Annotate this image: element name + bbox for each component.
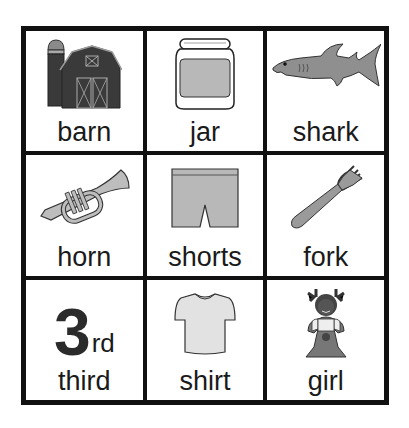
word-label: barn — [26, 115, 143, 149]
word-label: horn — [26, 240, 143, 274]
jar-icon — [174, 37, 236, 111]
shirt-icon — [173, 290, 237, 356]
card-shark[interactable]: shark — [267, 31, 384, 151]
word-label: shorts — [147, 240, 264, 274]
card-third[interactable]: 3 rd third — [26, 280, 143, 400]
shorts-icon — [170, 167, 240, 229]
card-girl[interactable]: girl — [267, 280, 384, 400]
picture-word-grid: barn jar shark — [21, 26, 389, 405]
fork-icon — [288, 164, 364, 232]
word-label: jar — [147, 115, 264, 149]
word-label: fork — [267, 240, 384, 274]
shark-icon — [271, 42, 381, 90]
girl-icon — [304, 287, 348, 359]
card-horn[interactable]: horn — [26, 155, 143, 275]
ordinal-3rd-icon: 3 rd — [26, 284, 143, 362]
barn-icon — [46, 38, 122, 110]
card-barn[interactable]: barn — [26, 31, 143, 151]
card-fork[interactable]: fork — [267, 155, 384, 275]
card-shirt[interactable]: shirt — [147, 280, 264, 400]
trumpet-icon — [37, 166, 131, 230]
word-label: girl — [267, 364, 384, 398]
card-jar[interactable]: jar — [147, 31, 264, 151]
card-shorts[interactable]: shorts — [147, 155, 264, 275]
ordinal-number: 3 — [54, 302, 91, 362]
word-label: shirt — [147, 364, 264, 398]
ordinal-suffix: rd — [92, 330, 115, 356]
word-label: third — [26, 364, 143, 398]
word-label: shark — [267, 115, 384, 149]
